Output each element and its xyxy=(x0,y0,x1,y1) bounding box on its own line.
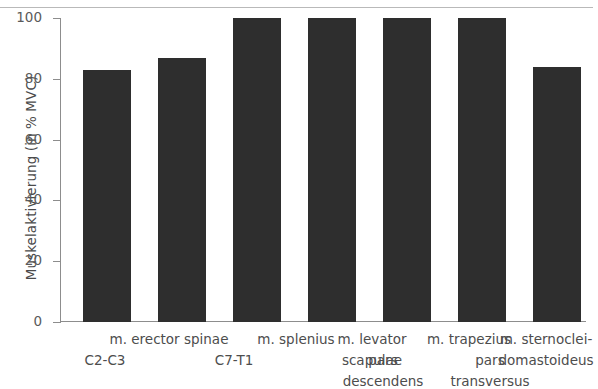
category-sublabel-pars-transversus-line2: transversus xyxy=(430,372,550,389)
bar-trapezius-pars-descendens[interactable] xyxy=(383,18,431,322)
y-tick-label-60: 60 xyxy=(25,131,42,147)
plot-area: 100 80 60 40 20 0 xyxy=(60,18,586,322)
y-tick-label-80: 80 xyxy=(25,70,42,86)
category-label-sternocleidomastoideus-line2: domastoideus xyxy=(466,351,598,370)
bar-erector-spinae-c7-t1[interactable] xyxy=(158,58,206,322)
category-label-sternocleidomastoideus-line1: m. sternoclei- xyxy=(466,330,598,349)
y-tick-label-20: 20 xyxy=(25,252,42,268)
bar-levator-scapulae[interactable] xyxy=(308,18,356,322)
y-tick-60: 60 xyxy=(53,140,60,141)
y-tick-label-0: 0 xyxy=(33,313,42,329)
y-tick-20: 20 xyxy=(53,261,60,262)
category-sublabel-c7-t1: C7-T1 xyxy=(174,351,294,370)
y-tick-100: 100 xyxy=(53,18,60,19)
bar-erector-spinae-c2-c3[interactable] xyxy=(83,70,131,322)
category-sublabel-pars-descendens-line1: pars xyxy=(323,351,443,370)
category-sublabel-pars-descendens-line2: descendens xyxy=(323,372,443,389)
bar-splenius[interactable] xyxy=(233,18,281,322)
y-tick-40: 40 xyxy=(53,200,60,201)
category-label-area: m. erector spinae C2-C3 C7-T1 m. spleniu… xyxy=(60,330,593,389)
y-tick-0: 0 xyxy=(53,322,60,323)
bar-sternocleidomastoideus[interactable] xyxy=(533,67,581,322)
bar-series xyxy=(60,18,586,322)
y-tick-label-100: 100 xyxy=(16,9,42,25)
y-tick-80: 80 xyxy=(53,79,60,80)
category-sublabel-c2-c3: C2-C3 xyxy=(45,351,165,370)
bar-trapezius-pars-transversus[interactable] xyxy=(458,18,506,322)
y-tick-label-40: 40 xyxy=(25,191,42,207)
